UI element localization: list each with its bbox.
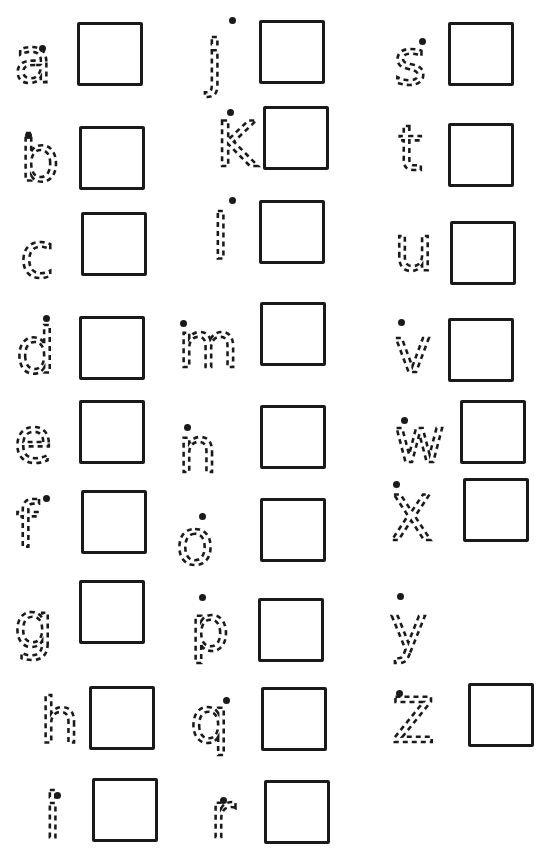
start-dot-icon [393, 481, 400, 488]
letter-glyph: q [190, 684, 229, 757]
answer-box[interactable] [448, 318, 514, 382]
tracing-letter: n [176, 410, 236, 490]
tracing-letter: X [388, 478, 448, 558]
start-dot-icon [199, 594, 206, 601]
letter-glyph: d [16, 314, 55, 387]
answer-box[interactable] [448, 22, 514, 86]
tracing-letter: y [388, 588, 448, 668]
start-dot-icon [54, 792, 61, 799]
answer-box[interactable] [468, 683, 534, 747]
letter-glyph: h [40, 684, 79, 757]
tracing-letter: t [396, 108, 456, 188]
tracing-letter: s [392, 22, 452, 102]
answer-box[interactable] [264, 780, 330, 844]
letter-glyph: e [14, 404, 52, 477]
answer-box[interactable] [79, 316, 145, 380]
letter-glyph: u [394, 212, 433, 285]
answer-box[interactable] [261, 687, 327, 751]
letter-glyph: c [20, 219, 54, 292]
start-dot-icon [184, 424, 191, 431]
start-dot-icon [39, 45, 46, 52]
answer-box[interactable] [81, 212, 147, 276]
tracing-letter: d [14, 310, 74, 390]
tracing-letter: p [188, 588, 248, 668]
tracing-letter: a [12, 20, 72, 100]
answer-box[interactable] [263, 106, 329, 170]
answer-box[interactable] [259, 200, 325, 264]
start-dot-icon [223, 697, 230, 704]
answer-box[interactable] [260, 405, 326, 469]
letter-glyph: w [394, 404, 445, 477]
start-dot-icon [25, 132, 32, 139]
answer-box[interactable] [258, 598, 324, 662]
start-dot-icon [220, 797, 227, 804]
letter-glyph: s [394, 26, 426, 99]
answer-box[interactable] [89, 686, 155, 750]
tracing-letter: c [18, 215, 78, 295]
start-dot-icon [401, 417, 408, 424]
letter-glyph: X [390, 482, 432, 555]
tracing-letter: j [204, 22, 264, 102]
answer-box[interactable] [460, 400, 526, 464]
start-dot-icon [43, 315, 50, 322]
letter-glyph: g [14, 589, 53, 662]
answer-box[interactable] [260, 498, 326, 562]
tracing-letter: q [188, 680, 248, 760]
letter-glyph: m [178, 309, 238, 382]
answer-box[interactable] [448, 123, 514, 187]
answer-box[interactable] [79, 580, 145, 644]
start-dot-icon [229, 197, 236, 204]
start-dot-icon [419, 38, 426, 45]
start-dot-icon [180, 320, 187, 327]
letter-glyph: f [16, 488, 40, 561]
tracing-letter: b [18, 118, 78, 198]
letter-glyph: K [216, 108, 258, 181]
letter-glyph: i [44, 779, 61, 852]
tracing-letter: r [208, 775, 268, 855]
letter-glyph: y [390, 592, 427, 665]
tracing-letter: u [392, 208, 452, 288]
start-dot-icon [398, 319, 405, 326]
tracing-letter: w [392, 400, 452, 480]
letter-glyph: l [212, 200, 229, 273]
start-dot-icon [199, 513, 206, 520]
answer-box[interactable] [259, 20, 325, 84]
answer-box[interactable] [463, 478, 529, 542]
start-dot-icon [43, 495, 50, 502]
tracing-letter: g [12, 585, 72, 665]
start-dot-icon [227, 109, 234, 116]
letter-glyph: a [14, 24, 52, 97]
answer-box[interactable] [79, 126, 145, 190]
tracing-letter: e [12, 400, 72, 480]
letter-glyph: o [176, 506, 214, 579]
answer-box[interactable] [77, 22, 143, 86]
letter-glyph: t [398, 112, 422, 185]
answer-box[interactable] [450, 221, 516, 285]
letter-glyph: r [210, 779, 236, 852]
answer-box[interactable] [81, 490, 147, 554]
start-dot-icon [396, 690, 403, 697]
start-dot-icon [229, 17, 236, 24]
letter-glyph: p [190, 592, 229, 665]
answer-box[interactable] [79, 400, 145, 464]
tracing-letter: m [176, 305, 236, 385]
letter-glyph: j [204, 26, 223, 99]
answer-box[interactable] [92, 778, 158, 842]
start-dot-icon [397, 593, 404, 600]
answer-box[interactable] [260, 302, 326, 366]
